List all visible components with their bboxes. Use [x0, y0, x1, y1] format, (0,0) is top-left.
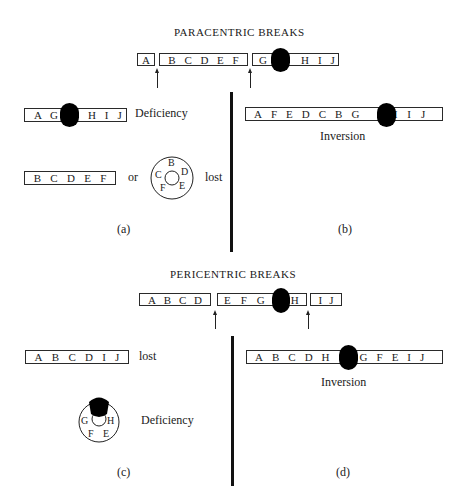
vertical-divider: [230, 92, 233, 252]
gene-label: D: [194, 294, 202, 306]
gene-label: E: [224, 294, 231, 306]
gene-label: I: [102, 351, 106, 363]
gene-label: B: [168, 157, 175, 168]
acentric-fragment: B C D E F: [24, 171, 116, 185]
gene-label: B: [168, 54, 175, 66]
gene-label: A: [35, 351, 43, 363]
gene-label: C: [319, 108, 326, 120]
gene-label: C: [68, 351, 75, 363]
gene-label: H: [322, 351, 330, 363]
gene-label: B: [335, 108, 342, 120]
vertical-divider: [231, 336, 234, 486]
gene-label: B: [52, 351, 59, 363]
gene-label: A: [142, 54, 150, 66]
panel-caption: (a): [117, 222, 130, 237]
gene-label: G: [360, 351, 368, 363]
break-arrow-icon: [308, 314, 309, 329]
gene-label: D: [67, 172, 75, 184]
gene-label: A: [254, 108, 262, 120]
break-arrow-icon: [215, 314, 216, 329]
gene-label: D: [181, 166, 188, 177]
acentric-fragment: A B C D I J: [25, 350, 129, 364]
deficiency-label: Deficiency: [135, 106, 188, 121]
break-arrow-icon: [157, 72, 158, 88]
gene-label: H: [301, 54, 309, 66]
gene-label: F: [100, 172, 106, 184]
segment-i-j: I J: [310, 293, 342, 306]
centromere-icon: [60, 103, 79, 127]
gene-label: H: [88, 109, 96, 121]
gene-label: G: [50, 109, 58, 121]
segment-a: A: [137, 53, 155, 66]
break-arrow-icon: [250, 72, 251, 88]
gene-label: C: [288, 351, 295, 363]
gene-label: C: [50, 172, 57, 184]
lost-label: lost: [139, 349, 156, 364]
gene-label: E: [286, 108, 293, 120]
gene-label: G: [257, 294, 265, 306]
pericentric-title: PERICENTRIC BREAKS: [170, 268, 296, 280]
segment-a-d: A B C D: [139, 293, 211, 306]
gene-label: B: [164, 294, 171, 306]
gene-label: I: [407, 108, 411, 120]
inversion-label: Inversion: [320, 129, 365, 144]
gene-label: E: [392, 351, 399, 363]
panel-caption: (c): [117, 465, 130, 480]
gene-label: I: [407, 351, 411, 363]
gene-label: J: [118, 109, 122, 121]
gene-label: C: [184, 54, 191, 66]
centromere-icon: [272, 288, 290, 313]
gene-label: B: [34, 172, 41, 184]
segment-e-h: E F G H: [217, 293, 307, 306]
gene-label: I: [105, 109, 109, 121]
gene-label: E: [217, 54, 224, 66]
segment-b-f: B C D E F: [159, 53, 248, 66]
gene-label: A: [148, 294, 156, 306]
centromere-icon: [339, 345, 358, 370]
gene-label: D: [305, 351, 313, 363]
gene-label: J: [420, 351, 424, 363]
gene-label: D: [85, 351, 93, 363]
gene-label: F: [241, 294, 247, 306]
gene-label: H: [107, 415, 114, 426]
gene-label: H: [291, 294, 299, 306]
gene-label: F: [88, 428, 94, 439]
centromere-icon: [89, 398, 109, 418]
gene-label: D: [302, 108, 310, 120]
panel-caption: (d): [336, 465, 350, 480]
segment-g-j: G H I J: [252, 53, 339, 66]
gene-label: I: [318, 54, 322, 66]
inverted-chromosome: A F E D C B G H I J: [245, 107, 443, 121]
paracentric-title: PARACENTRIC BREAKS: [174, 26, 305, 38]
gene-label: D: [200, 54, 208, 66]
gene-label: G: [259, 54, 267, 66]
centromere-icon: [271, 48, 290, 72]
gene-label: E: [103, 428, 109, 439]
gene-label: G: [351, 108, 359, 120]
lost-label: lost: [205, 170, 222, 185]
inversion-label: Inversion: [321, 375, 366, 390]
gene-label: C: [155, 169, 162, 180]
panel-caption: (b): [338, 222, 352, 237]
gene-label: F: [271, 108, 277, 120]
gene-label: I: [319, 294, 323, 306]
gene-label: J: [331, 54, 335, 66]
gene-label: B: [272, 351, 279, 363]
gene-label: A: [34, 109, 42, 121]
gene-label: C: [179, 294, 186, 306]
or-label: or: [128, 170, 138, 185]
gene-label: A: [255, 351, 263, 363]
gene-label: G: [81, 415, 88, 426]
gene-label: F: [377, 351, 383, 363]
gene-label: F: [160, 182, 166, 193]
gene-label: E: [179, 180, 185, 191]
gene-label: F: [232, 54, 238, 66]
deficiency-label: Deficiency: [141, 413, 194, 428]
gene-label: J: [421, 108, 425, 120]
gene-label: E: [84, 172, 91, 184]
gene-label: J: [115, 351, 119, 363]
centromere-icon: [377, 103, 396, 127]
gene-label: J: [329, 294, 333, 306]
